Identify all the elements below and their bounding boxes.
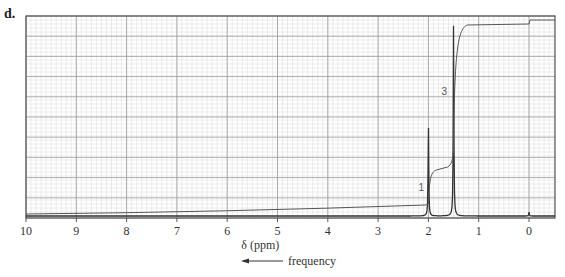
x-axis: 109876543210 bbox=[20, 218, 532, 238]
x-tick-label: 8 bbox=[124, 224, 130, 238]
nmr-spectrum-chart: 109876543210δ (ppm)frequency13 bbox=[0, 0, 565, 277]
x-tick-label: 10 bbox=[20, 224, 32, 238]
integration-label-1: 1 bbox=[418, 182, 424, 193]
integration-label-3: 3 bbox=[442, 86, 448, 97]
x-tick-label: 3 bbox=[375, 224, 381, 238]
x-axis-label: δ (ppm) bbox=[241, 238, 279, 252]
x-tick-label: 4 bbox=[325, 224, 331, 238]
x-tick-label: 0 bbox=[526, 224, 532, 238]
x-tick-label: 6 bbox=[224, 224, 230, 238]
x-tick-label: 9 bbox=[73, 224, 79, 238]
x-tick-label: 2 bbox=[425, 224, 431, 238]
frequency-label: frequency bbox=[288, 254, 336, 268]
x-tick-label: 5 bbox=[275, 224, 281, 238]
x-tick-label: 1 bbox=[476, 224, 482, 238]
x-tick-label: 7 bbox=[174, 224, 180, 238]
grid bbox=[26, 16, 555, 218]
spectrum-trace bbox=[26, 26, 555, 216]
